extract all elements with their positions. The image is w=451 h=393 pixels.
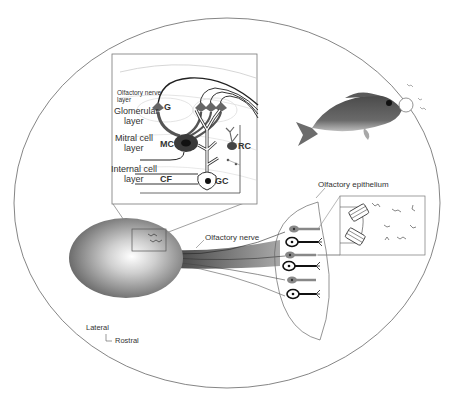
olfactory-nerve-layer-label-2: layer	[117, 96, 132, 104]
olfactory-epithelium-label: Olfactory epithelium	[318, 180, 389, 189]
internal-cell-layer-label: Internal cell	[111, 164, 157, 174]
bulb-inset: Olfactory nerve layer Glomerular layer M…	[111, 54, 258, 233]
orientation-indicator: Lateral Rostral	[86, 323, 139, 345]
mitral-cell-layer-label-2: layer	[124, 143, 144, 153]
gc-label: GC	[215, 176, 229, 186]
receptor-inset	[318, 196, 425, 255]
rostral-label: Rostral	[115, 336, 139, 345]
lateral-label: Lateral	[86, 323, 109, 332]
olfactory-diagram: Olfactory nerve layer Glomerular layer M…	[0, 0, 451, 393]
olfactory-nerve-label: Olfactory nerve	[205, 233, 260, 242]
glomerular-layer-label-2: layer	[124, 116, 144, 126]
internal-cell-layer-label-2: layer	[124, 174, 144, 184]
cf-label: CF	[160, 174, 172, 184]
fish-illustration	[296, 84, 426, 146]
mitral-cell-layer-label: Mitral cell	[115, 133, 153, 143]
glomerular-layer-label: Glomerular	[114, 106, 159, 116]
g-label: G	[164, 102, 171, 112]
mc-label: MC	[160, 139, 174, 149]
ruffed-cell	[227, 142, 237, 150]
rc-label: RC	[238, 141, 251, 151]
nostril-highlight	[399, 98, 413, 112]
